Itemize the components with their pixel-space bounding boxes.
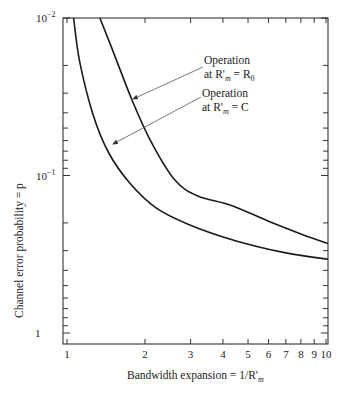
annotation-arrow-r0 — [133, 67, 203, 99]
x-tick-label: 4 — [220, 348, 226, 360]
curve-operation-at-r0 — [100, 18, 328, 243]
x-tick-label: 10 — [321, 348, 333, 360]
x-tick-label: 3 — [188, 348, 194, 360]
annotation-r0-line2: at R'm = R0 — [204, 68, 255, 83]
x-tick-label: 9 — [311, 348, 317, 360]
x-tick-label: 1 — [64, 348, 70, 360]
annotation-r0-line1: Operation — [204, 54, 250, 67]
y-tick-label-bottom: 1 — [35, 327, 41, 339]
x-tick-label: 6 — [266, 348, 272, 360]
y-tick-label-mid: 10−1 — [36, 168, 56, 182]
plot-frame — [63, 18, 328, 344]
x-tick-label: 2 — [142, 348, 148, 360]
y-axis-title: Channel error probability = p — [13, 183, 26, 318]
chart: 12345678910 10−2 10−1 1 Operation at R'm… — [0, 0, 347, 393]
x-tick-label: 7 — [283, 348, 289, 360]
y-axis-ticks — [63, 18, 328, 333]
x-tick-label: 8 — [298, 348, 304, 360]
x-tick-label: 5 — [245, 348, 251, 360]
annotation-c-line2: at R'm = C — [202, 101, 249, 116]
x-axis-title: Bandwidth expansion = 1/R'm — [127, 369, 264, 384]
x-axis-tick-labels: 12345678910 — [64, 348, 332, 360]
annotation-c-line1: Operation — [202, 87, 248, 100]
x-axis-ticks — [67, 18, 326, 344]
curve-operation-at-c — [74, 18, 328, 259]
y-tick-label-top: 10−2 — [36, 10, 56, 24]
annotation-arrow-c — [113, 97, 201, 144]
